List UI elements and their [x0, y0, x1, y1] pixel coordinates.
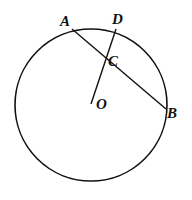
circle-o [15, 29, 167, 181]
label-a: A [59, 13, 70, 29]
chord-ab [72, 29, 166, 109]
label-d: D [111, 11, 123, 27]
label-o: O [96, 96, 107, 112]
label-b: B [166, 105, 177, 121]
geometry-diagram: A D C O B [0, 0, 192, 200]
label-c: C [108, 53, 119, 69]
